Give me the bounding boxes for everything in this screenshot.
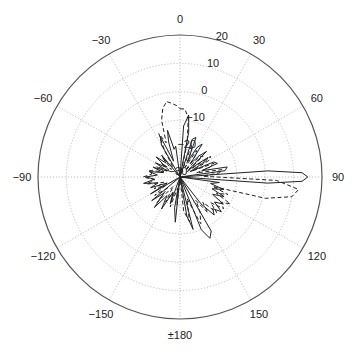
angle-label: ±180 xyxy=(168,329,192,341)
radial-label: −30 xyxy=(169,165,188,177)
radial-label: 20 xyxy=(216,30,228,42)
angle-label: 150 xyxy=(250,308,268,320)
angle-label: 120 xyxy=(308,250,326,262)
angle-label: −150 xyxy=(89,308,114,320)
angle-label: −120 xyxy=(31,250,56,262)
radial-label: 10 xyxy=(207,57,219,69)
angle-label: 0 xyxy=(177,13,183,25)
series-dashed xyxy=(143,102,299,224)
grid-spoke xyxy=(180,177,303,248)
angle-label: −90 xyxy=(13,171,32,183)
polar-chart: 0306090120150±180−150−120−90−60−30 20100… xyxy=(0,0,358,352)
angle-label: 60 xyxy=(311,92,323,104)
angle-label: 30 xyxy=(253,34,265,46)
angle-label: −30 xyxy=(92,34,111,46)
radial-label: −20 xyxy=(177,138,196,150)
radial-label: 0 xyxy=(201,84,207,96)
angle-label: 90 xyxy=(332,171,344,183)
angle-label: −60 xyxy=(34,92,53,104)
radial-label: −10 xyxy=(186,111,205,123)
